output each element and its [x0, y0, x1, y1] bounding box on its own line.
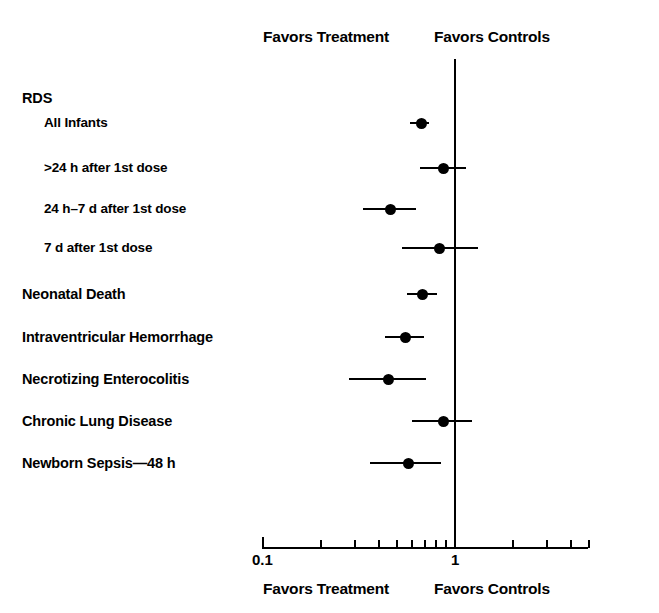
point-estimate-marker	[417, 289, 428, 300]
x-axis-tick-major	[262, 537, 264, 548]
x-axis-tick-minor	[546, 540, 548, 548]
outcome-row-label: Intraventricular Hemorrhage	[22, 330, 213, 345]
footer-favors-treatment: Favors Treatment	[263, 580, 389, 598]
point-estimate-marker	[434, 243, 445, 254]
x-axis-tick-minor	[570, 540, 572, 548]
outcome-row-label: 7 d after 1st dose	[44, 241, 152, 255]
header-favors-controls: Favors Controls	[434, 28, 550, 46]
outcome-row-label: Chronic Lung Disease	[22, 414, 172, 429]
null-effect-line	[454, 59, 456, 549]
x-axis-tick-minor	[396, 540, 398, 548]
point-estimate-marker	[400, 332, 411, 343]
x-axis-tick-minor	[320, 540, 322, 548]
outcome-row-label: All Infants	[44, 116, 108, 130]
x-axis-tick-major	[454, 537, 456, 548]
outcome-row-label: >24 h after 1st dose	[44, 161, 167, 175]
header-favors-treatment: Favors Treatment	[263, 28, 389, 46]
x-axis-tick-minor	[411, 540, 413, 548]
x-axis-tick-label: 0.1	[252, 551, 273, 568]
x-axis-tick-minor	[512, 540, 514, 548]
x-axis-tick-minor	[435, 540, 437, 548]
forest-plot-figure: Favors Treatment Favors Controls RDSAll …	[0, 0, 659, 613]
x-axis-tick-minor	[588, 540, 590, 548]
group-heading-label: RDS	[22, 91, 52, 106]
point-estimate-marker	[438, 416, 449, 427]
outcome-row-label: Necrotizing Enterocolitis	[22, 372, 189, 387]
point-estimate-marker	[385, 204, 396, 215]
outcome-row-label: Newborn Sepsis—48 h	[22, 456, 175, 471]
x-axis-tick-minor	[424, 540, 426, 548]
point-estimate-marker	[383, 374, 394, 385]
x-axis-tick-label: 1	[451, 551, 459, 568]
footer-favors-controls: Favors Controls	[434, 580, 550, 598]
x-axis-tick-minor	[445, 540, 447, 548]
point-estimate-marker	[438, 163, 449, 174]
outcome-row-label: Neonatal Death	[22, 287, 125, 302]
point-estimate-marker	[416, 118, 427, 129]
point-estimate-marker	[403, 458, 414, 469]
x-axis-tick-minor	[354, 540, 356, 548]
outcome-row-label: 24 h–7 d after 1st dose	[44, 202, 186, 216]
x-axis-tick-minor	[378, 540, 380, 548]
